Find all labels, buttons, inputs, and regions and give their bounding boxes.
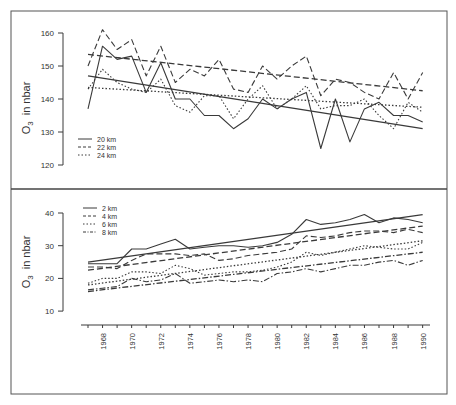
bottom-y-axis: 10203040 [45,209,63,316]
x-tick-label: 1974 [186,333,195,350]
bottom-series-lines [88,215,423,292]
bottom-legend: 2 km4 km6 km8 km [83,205,117,236]
legend-label: 2 km [102,205,117,212]
top-panel-20-24km: 120130140150160 O3in nbar 20 km22 km24 k… [20,29,423,170]
top-series-lines [88,30,423,149]
series-24-km [88,69,423,128]
y-tick-label: 30 [45,242,54,251]
series-20-km [88,46,423,148]
y-tick-label: 10 [45,307,54,316]
trend-20-km [88,76,423,129]
y-tick-label: 40 [45,209,54,218]
x-tick-label: 1970 [128,333,137,350]
trend-6-km [88,241,423,285]
top-y-axis: 120130140150160 [41,29,63,170]
y-tick-label: 160 [41,29,55,38]
figure-frame [11,11,447,394]
x-tick-label: 1986 [360,333,369,350]
top-legend: 20 km22 km24 km [78,136,116,159]
x-tick-label: 1982 [302,333,311,350]
trend-24-km [88,87,423,107]
top-y-label: O3in nbar [20,81,35,134]
x-axis-years: 1968197019721974197619781980198219841986… [81,325,430,350]
y-tick-label: 20 [45,274,54,283]
x-tick-label: 1972 [157,333,166,350]
x-tick-label: 1990 [419,333,428,350]
x-tick-label: 1980 [273,333,282,350]
legend-label: 24 km [97,152,116,159]
bottom-y-label: O3in nbar [20,235,35,288]
x-tick-label: 1984 [331,333,340,350]
legend-label: 8 km [102,229,117,236]
x-tick-label: 1968 [99,333,108,350]
legend-label: 20 km [97,136,116,143]
x-tick-label: 1988 [390,333,399,350]
legend-label: 6 km [102,221,117,228]
trend-8-km [88,252,423,291]
y-tick-label: 120 [41,161,55,170]
legend-label: 4 km [102,213,117,220]
y-tick-label: 140 [41,95,55,104]
legend-label: 22 km [97,144,116,151]
ozone-trend-figure: 120130140150160 O3in nbar 20 km22 km24 k… [0,0,456,405]
bottom-panel-2-8km: 10203040 O3in nbar 2 km4 km6 km8 km 1968… [20,205,430,350]
series-22-km [88,30,423,99]
y-tick-label: 150 [41,62,55,71]
x-tick-label: 1976 [215,333,224,350]
x-tick-label: 1978 [244,333,253,350]
y-tick-label: 130 [41,128,55,137]
